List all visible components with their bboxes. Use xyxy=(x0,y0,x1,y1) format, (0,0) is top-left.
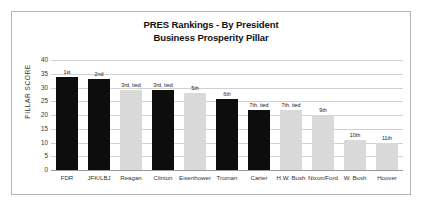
bar[interactable] xyxy=(216,99,237,171)
y-axis-tick-label: 20 xyxy=(41,112,48,118)
bar-slot: 3rd, tiedClinton xyxy=(147,60,179,170)
bar-value-label: 2nd xyxy=(83,72,115,77)
bar-slot: 9thNixon/Ford xyxy=(307,60,339,170)
bar-value-label: 3rd, tied xyxy=(115,83,147,88)
bar[interactable] xyxy=(344,140,365,170)
bar-value-label: 3rd, tied xyxy=(147,83,179,88)
bar-value-label: 5th xyxy=(179,86,211,91)
bar[interactable] xyxy=(184,93,205,170)
chart-title-line-2: Business Prosperity Pillar xyxy=(12,32,410,45)
y-axis-tick-label: 30 xyxy=(41,84,48,90)
y-axis-tick-label: 25 xyxy=(41,98,48,104)
bar[interactable] xyxy=(56,77,77,171)
bar[interactable] xyxy=(152,90,173,170)
bar-value-label: 9th xyxy=(307,108,339,113)
bar-slot: 2ndJFK/LBJ xyxy=(83,60,115,170)
bar[interactable] xyxy=(88,79,109,170)
chart-title: PRES Rankings - By President Business Pr… xyxy=(12,19,410,44)
bar-slot: 10thW. Bush xyxy=(339,60,371,170)
bar-slot: 6thTruman xyxy=(211,60,243,170)
bar-value-label: 7th, tied xyxy=(275,103,307,108)
bar-slot: 7th, tiedCarter xyxy=(243,60,275,170)
bar-slot: 7th, tiedH.W. Bush xyxy=(275,60,307,170)
bar-slot: 11thHoover xyxy=(371,60,403,170)
y-axis-tick-label: 40 xyxy=(41,57,48,63)
bar-value-label: 1st xyxy=(51,70,83,75)
bar-slot: 3rd, tiedReagan xyxy=(115,60,147,170)
y-axis-tick-label: 5 xyxy=(44,153,48,159)
bar-value-label: 11th xyxy=(371,136,403,141)
bar-value-label: 10th xyxy=(339,133,371,138)
gridline xyxy=(51,170,403,171)
bar[interactable] xyxy=(280,110,301,171)
plot-area: 0510152025303540 1stFDR2ndJFK/LBJ3rd, ti… xyxy=(51,60,403,170)
chart-title-line-1: PRES Rankings - By President xyxy=(12,19,410,32)
bar-slot: 1stFDR xyxy=(51,60,83,170)
x-axis-tick-label: Hoover xyxy=(363,175,411,181)
bar[interactable] xyxy=(312,115,333,170)
bar-slot: 5thEisenhower xyxy=(179,60,211,170)
y-axis-title: PILLAR SCORE xyxy=(24,42,31,142)
bar[interactable] xyxy=(120,90,141,170)
bar-value-label: 6th xyxy=(211,92,243,97)
chart-container: PRES Rankings - By President Business Pr… xyxy=(11,11,411,195)
y-axis-tick-label: 10 xyxy=(41,139,48,145)
bar[interactable] xyxy=(376,143,397,171)
y-axis-tick-label: 15 xyxy=(41,126,48,132)
bar-series: 1stFDR2ndJFK/LBJ3rd, tiedReagan3rd, tied… xyxy=(51,60,403,170)
y-axis-tick-label: 35 xyxy=(41,71,48,77)
bar-value-label: 7th, tied xyxy=(243,103,275,108)
y-axis-tick-label: 0 xyxy=(44,167,48,173)
bar[interactable] xyxy=(248,110,269,171)
